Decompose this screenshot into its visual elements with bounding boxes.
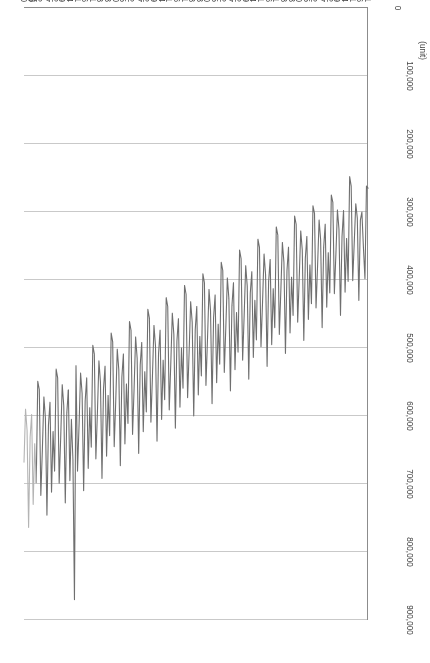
value-axis-title: (unit) (418, 41, 427, 60)
series-line (68, 177, 368, 600)
series-line (24, 409, 36, 527)
category-axis-tick-label: 2008_01 (88, 0, 97, 2)
value-axis-tick-label: 300,000 (384, 197, 414, 227)
series-line (36, 369, 68, 515)
value-axis-tick-label: 600,000 (384, 401, 414, 431)
category-axis-tick-label: 7 (318, 0, 327, 2)
category-axis-tick-label: 2 (234, 0, 243, 2)
value-axis-tick-label: 500,000 (384, 333, 414, 363)
category-axis-tick-label: 6 (172, 0, 181, 2)
category-axis-tick-label: 5 (211, 0, 220, 2)
value-axis-tick-label: 700,000 (384, 469, 414, 499)
category-axis-tick-label: 7 (134, 0, 143, 2)
category-axis-title: (year_month) (28, 0, 38, 2)
category-axis-tick-label: 12 (127, 0, 136, 2)
category-axis-tick-label: 10 (111, 0, 120, 2)
category-axis-tick-label: 1993_01 (364, 0, 373, 2)
value-axis-tick-label: 800,000 (384, 537, 414, 567)
category-axis-tick-label: 8 (279, 0, 288, 2)
category-axis-tick-label: 7 (42, 0, 51, 2)
category-axis-tick-label: 3 (104, 0, 113, 2)
category-axis-tick-label: 4 (65, 0, 74, 2)
category-axis-tick-label: 9 (241, 0, 250, 2)
value-axis-tick-label: 100,000 (384, 61, 414, 91)
category-axis-tick-label: 12 (218, 0, 227, 2)
value-axis-tick-label: 400,000 (384, 265, 414, 295)
category-axis-tick-label: 4 (341, 0, 350, 2)
value-axis-tick-label: 0 (372, 6, 402, 11)
plot-series-layer (24, 8, 368, 620)
category-axis-tick-label: 11 (348, 0, 357, 2)
category-axis-tick-label: 9 (149, 0, 158, 2)
category-axis-tick-label: 5 (302, 0, 311, 2)
value-axis-tick-label: 200,000 (384, 129, 414, 159)
category-axis-tick-label: 11 (256, 0, 265, 2)
chart-figure: (unit) 900,000800,000700,000600,000500,0… (0, 0, 430, 663)
category-axis-tick-label: 3 (195, 0, 204, 2)
category-axis-tick-label: 2 (325, 0, 334, 2)
value-axis-tick-label: 900,000 (384, 605, 414, 635)
